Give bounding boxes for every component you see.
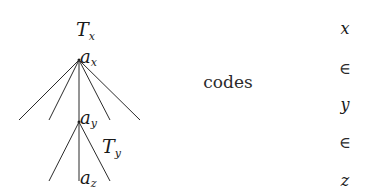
sequence-item-y: y xyxy=(339,95,350,114)
sequence-item-x: x xyxy=(340,19,349,38)
subtree-label: Ty xyxy=(102,135,122,160)
leaf-node-label: az xyxy=(80,167,97,190)
sequence-item-element-of-1: ∈ xyxy=(339,59,351,78)
sequence-item-element-of-2: ∈ xyxy=(339,133,351,152)
sequence-item-z: z xyxy=(340,171,350,190)
child-node-label: ay xyxy=(80,107,98,130)
code-sequence: x ∈ y ∈ z xyxy=(339,19,351,190)
root-tree-label: Tx xyxy=(76,18,96,43)
tree: Tx ax ay Ty az xyxy=(19,18,140,190)
root-node-label: ax xyxy=(80,46,98,69)
codes-label: codes xyxy=(203,72,252,92)
tree-codes-diagram: Tx ax ay Ty az codes x ∈ y ∈ xyxy=(0,0,373,194)
